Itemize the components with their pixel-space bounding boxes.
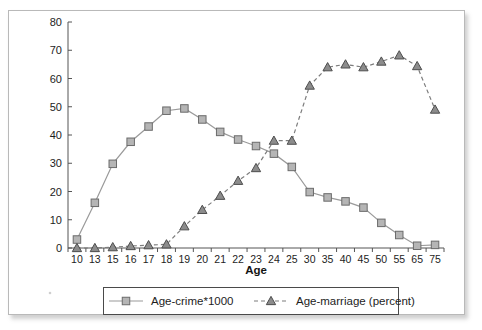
square-marker-icon xyxy=(109,160,117,168)
x-tick-label: 13 xyxy=(89,253,101,265)
x-tick-label: 21 xyxy=(214,253,226,265)
square-marker-icon xyxy=(270,150,278,158)
x-tick-label: 75 xyxy=(429,253,441,265)
square-marker-icon xyxy=(252,142,260,150)
square-marker-icon xyxy=(378,219,386,227)
x-axis-ticks xyxy=(68,248,444,252)
x-tick-label: 22 xyxy=(232,253,244,265)
square-marker-icon xyxy=(234,136,242,144)
x-tick-label: 16 xyxy=(125,253,137,265)
square-marker-icon xyxy=(181,105,189,113)
legend-entry-1[interactable]: Age-crime*1000 xyxy=(109,295,233,307)
y-tick-label: 0 xyxy=(56,242,62,254)
x-tick-label: 50 xyxy=(375,253,387,265)
y-tick-label: 40 xyxy=(50,129,62,141)
square-marker-icon xyxy=(413,242,421,250)
x-tick-label: 18 xyxy=(161,253,173,265)
y-tick-label: 10 xyxy=(50,214,62,226)
x-tick-label: 10 xyxy=(71,253,83,265)
square-marker-icon xyxy=(360,204,368,212)
x-tick-label: 20 xyxy=(196,253,208,265)
triangle-marker-icon xyxy=(395,51,404,59)
square-marker-icon xyxy=(163,107,171,115)
square-marker-icon xyxy=(199,116,207,124)
y-tick-label: 50 xyxy=(50,101,62,113)
x-tick-label: 30 xyxy=(304,253,316,265)
series-layer xyxy=(72,51,439,252)
chart-legend: Age-crime*1000Age-marriage (percent) xyxy=(104,288,416,315)
age-crime-marriage-line-chart: 01020304050607080 1013151617181920212223… xyxy=(0,0,482,330)
chart-page: 01020304050607080 1013151617181920212223… xyxy=(0,0,482,330)
triangle-marker-icon xyxy=(269,136,278,144)
x-tick-label: 17 xyxy=(143,253,155,265)
triangle-marker-icon xyxy=(341,60,350,68)
y-tick-label: 30 xyxy=(50,157,62,169)
triangle-marker-icon xyxy=(216,191,225,199)
y-tick-label: 60 xyxy=(50,73,62,85)
triangle-marker-icon xyxy=(108,243,117,251)
square-marker-icon xyxy=(216,128,224,136)
x-tick-label: 19 xyxy=(179,253,191,265)
triangle-marker-icon xyxy=(430,105,439,113)
x-tick-label: 65 xyxy=(411,253,423,265)
y-axis-tick-labels: 01020304050607080 xyxy=(50,16,62,254)
triangle-marker-icon xyxy=(144,241,153,249)
triangle-marker-icon xyxy=(305,81,314,89)
x-tick-label: 55 xyxy=(393,253,405,265)
x-axis-title: Age xyxy=(245,264,267,276)
square-marker-icon xyxy=(342,198,350,206)
x-tick-label: 45 xyxy=(358,253,370,265)
square-marker-icon xyxy=(288,163,296,171)
x-tick-label: 25 xyxy=(286,253,298,265)
triangle-marker-icon xyxy=(233,176,242,184)
square-marker-icon xyxy=(431,241,439,249)
square-marker-icon xyxy=(145,123,153,130)
y-tick-label: 20 xyxy=(50,186,62,198)
x-tick-label: 40 xyxy=(340,253,352,265)
square-marker-icon xyxy=(306,188,314,196)
square-marker-icon xyxy=(73,236,81,244)
square-marker-icon xyxy=(324,194,332,202)
square-marker-icon xyxy=(395,231,403,239)
y-tick-label: 70 xyxy=(50,44,62,56)
square-marker-icon xyxy=(127,138,134,146)
square-marker-icon xyxy=(122,297,130,305)
square-marker-icon xyxy=(91,199,99,207)
triangle-marker-icon xyxy=(198,205,207,213)
y-axis-ticks xyxy=(68,22,72,248)
triangle-marker-icon xyxy=(251,163,260,171)
series-1 xyxy=(73,105,439,250)
y-tick-label: 80 xyxy=(50,16,62,28)
legend-label: Age-marriage (percent) xyxy=(296,295,415,307)
x-tick-label: 15 xyxy=(107,253,119,265)
x-tick-label: 24 xyxy=(268,253,280,265)
legend-label: Age-crime*1000 xyxy=(151,295,233,307)
scan-speck xyxy=(49,292,52,295)
triangle-marker-icon xyxy=(412,61,421,69)
x-tick-label: 35 xyxy=(322,253,334,265)
